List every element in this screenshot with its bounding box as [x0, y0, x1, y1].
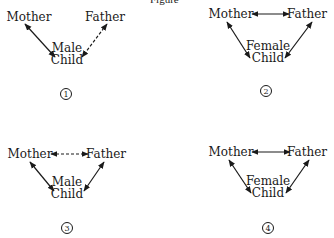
diagram-number-badge: 1	[61, 89, 72, 100]
diagram-number-badge: 3	[62, 223, 73, 234]
node-mother: Mother	[7, 10, 52, 24]
diagram-number-badge: 4	[263, 223, 274, 234]
node-mother: Mother	[209, 7, 254, 21]
diagram-4: MotherFatherFemaleChild4	[209, 145, 328, 234]
relationship-arrow-solid	[84, 162, 104, 191]
svg-text:4: 4	[265, 224, 270, 233]
family-relationship-diagrams: FigureMotherFatherMaleChild1MotherFather…	[0, 0, 334, 238]
node-child: FemaleChild	[246, 174, 290, 200]
svg-text:3: 3	[64, 224, 69, 233]
node-child: MaleChild	[51, 175, 84, 201]
node-father: Father	[287, 7, 327, 21]
node-child: FemaleChild	[246, 39, 290, 65]
node-father: Father	[85, 10, 125, 24]
svg-text:1: 1	[63, 90, 68, 99]
diagram-number-badge: 2	[261, 86, 272, 97]
node-father: Father	[86, 147, 126, 161]
node-mother: Mother	[8, 147, 53, 161]
relationship-arrow-dashed	[82, 24, 107, 57]
svg-text:2: 2	[263, 87, 268, 96]
node-child: MaleChild	[51, 41, 84, 67]
diagram-3: MotherFatherMaleChild3	[8, 147, 127, 234]
diagram-2: MotherFatherFemaleChild2	[209, 7, 328, 97]
node-mother: Mother	[209, 145, 254, 159]
figure-title-partial: Figure	[150, 0, 179, 5]
node-father: Father	[287, 145, 327, 159]
diagram-1: MotherFatherMaleChild1	[7, 10, 126, 100]
